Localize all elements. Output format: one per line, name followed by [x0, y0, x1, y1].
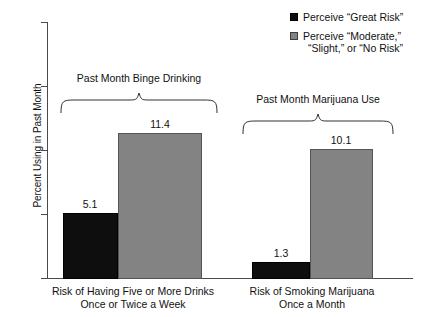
y-tick-group-15: 15 [0, 86, 421, 87]
bar-moderate-risk-marijuana-use[interactable] [310, 149, 373, 279]
group-brace-binge-drinking [60, 92, 218, 114]
bar-great-risk-binge-drinking[interactable] [63, 213, 118, 279]
bar-chart: Percent Using in Past Month 20 15 10 5 0… [0, 0, 421, 317]
group-brace-marijuana-use [242, 113, 394, 135]
legend-label-great-risk: Perceive “Great Risk” [303, 11, 421, 24]
group-title-marijuana-use: Past Month Marijuana Use [256, 93, 380, 105]
y-axis-title: Percent Using in Past Month [32, 46, 43, 246]
y-tick-mark [41, 278, 47, 279]
bar-moderate-risk-binge-drinking[interactable] [118, 133, 202, 279]
bar-value-moderate-risk-marijuana-use: 10.1 [331, 134, 351, 146]
x-category-label-line2: Once a Month [250, 298, 375, 311]
legend-label-moderate-risk-line1: Perceive “Moderate,” [303, 30, 421, 43]
y-tick-mark [41, 214, 47, 215]
y-tick-mark [41, 22, 47, 23]
bar-value-moderate-risk-binge-drinking: 11.4 [150, 118, 170, 130]
legend-label-moderate-risk-line2: “Slight,” or “No Risk” [308, 42, 421, 55]
x-category-label-binge-drinking: Risk of Having Five or More Drinks Once … [52, 285, 214, 310]
bar-value-great-risk-marijuana-use: 1.3 [274, 247, 289, 259]
x-category-label-marijuana-use: Risk of Smoking Marijuana Once a Month [250, 285, 375, 310]
x-category-label-line2: Once or Twice a Week [52, 298, 214, 311]
bar-value-great-risk-binge-drinking: 5.1 [83, 198, 98, 210]
x-category-label-line1: Risk of Smoking Marijuana [250, 285, 375, 298]
legend-item-moderate-risk[interactable]: Perceive “Moderate,” “Slight,” or “No Ri… [290, 30, 421, 55]
legend: Perceive “Great Risk” Perceive “Moderate… [290, 11, 421, 61]
bar-great-risk-marijuana-use[interactable] [252, 262, 310, 279]
group-title-binge-drinking: Past Month Binge Drinking [77, 72, 201, 84]
legend-item-great-risk[interactable]: Perceive “Great Risk” [290, 11, 421, 24]
legend-swatch-moderate-risk-icon [290, 32, 298, 40]
legend-swatch-great-risk-icon [290, 13, 298, 21]
x-category-label-line1: Risk of Having Five or More Drinks [52, 285, 214, 298]
y-tick-mark [41, 150, 47, 151]
y-tick-mark [41, 86, 47, 87]
